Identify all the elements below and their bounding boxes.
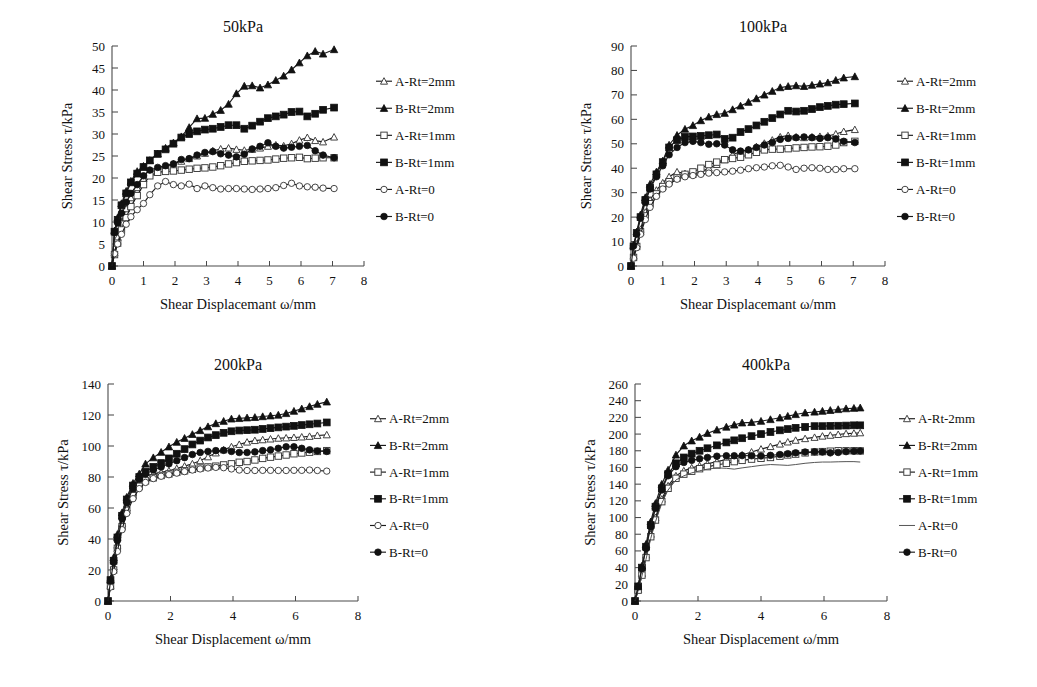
y-tick-label: 260 [609, 377, 629, 392]
y-tick-label: 80 [611, 63, 624, 78]
legend-label: B-Rt=1mm [916, 155, 975, 170]
y-tick-label: 0 [622, 594, 629, 609]
series-a-rt-0 [111, 178, 337, 266]
y-tick-label: 90 [611, 39, 624, 54]
x-axis-title: Shear Displacemant ω/mm [680, 296, 837, 312]
panel-title: 200kPa [214, 356, 262, 373]
x-tick-label: 8 [884, 608, 891, 623]
legend-label: B-Rt=0 [918, 545, 957, 560]
legend-label: A-Rt-2mm [918, 411, 975, 426]
y-tick-label: 20 [615, 577, 628, 592]
y-tick-label: 25 [92, 149, 105, 164]
y-axis-title: Shear Stress τ/kPa [582, 439, 598, 546]
x-tick-label: 0 [632, 608, 639, 623]
series-a-rt-2mm [630, 126, 858, 266]
series-b-rt-0 [630, 134, 858, 266]
x-tick-label: 0 [105, 608, 112, 623]
legend-label: B-Rt=2mm [395, 101, 454, 116]
x-tick-label: 8 [355, 608, 362, 623]
y-tick-label: 140 [609, 477, 629, 492]
x-tick-label: 2 [695, 608, 702, 623]
legend: A-Rt-2mmB-Rt=2mmA-Rt=1mmB-Rt=1mmA-Rt=0B-… [899, 411, 978, 559]
x-tick-label: 4 [235, 273, 242, 288]
legend-label: A-Rt=1mm [395, 128, 455, 143]
x-tick-label: 5 [266, 273, 273, 288]
y-tick-label: 240 [609, 393, 629, 408]
y-tick-label: 60 [611, 112, 624, 127]
y-tick-label: 30 [92, 127, 105, 142]
x-tick-label: 8 [882, 273, 889, 288]
x-tick-label: 3 [723, 273, 730, 288]
panel-title: 100kPa [739, 18, 787, 35]
series-a-rt-1mm [111, 154, 337, 266]
x-axis-title: Shear Displacement ω/mm [155, 631, 312, 647]
y-tick-label: 220 [609, 410, 629, 425]
legend-label: A-Rt=1mm [916, 128, 976, 143]
y-tick-label: 20 [92, 171, 105, 186]
y-tick-label: 40 [88, 532, 101, 547]
legend-label: A-Rt=1mm [389, 465, 449, 480]
axes: 0204060801001201401601802002202402600246… [609, 377, 891, 624]
legend-label: A-Rt=2mm [389, 411, 449, 426]
x-tick-label: 0 [628, 273, 635, 288]
y-tick-label: 40 [611, 161, 624, 176]
figure-shear-stress-displacement-curves: 50kPa05101520253035404550012345678Shear … [0, 0, 1037, 687]
axes: 0102030405060708090012345678 [611, 39, 888, 289]
x-tick-label: 2 [172, 273, 179, 288]
y-tick-label: 180 [609, 443, 629, 458]
y-axis-title: Shear Stress τ/kPa [59, 102, 75, 209]
y-tick-label: 40 [615, 560, 628, 575]
x-tick-label: 2 [167, 608, 174, 623]
legend-label: B-Rt=0 [389, 545, 428, 560]
x-tick-label: 1 [660, 273, 667, 288]
legend-label: B-Rt=1mm [389, 491, 448, 506]
x-axis-title: Shear Displacement ω/mm [683, 631, 840, 647]
series-a-rt-0 [635, 462, 860, 601]
legend-label: B-Rt=0 [395, 209, 434, 224]
x-tick-label: 2 [691, 273, 698, 288]
legend: A-Rt=2mmB-Rt=2mmA-Rt=1mmB-Rt=1mmA-Rt=0B-… [897, 74, 976, 224]
series-a-rt-0 [630, 162, 858, 266]
chart-100kpa: 100kPa0102030405060708090012345678Shear … [519, 0, 1037, 344]
y-axis-title: Shear Stress τ/kPa [55, 439, 71, 546]
panel-title: 50kPa [223, 18, 263, 35]
y-tick-label: 100 [82, 439, 102, 454]
y-tick-label: 35 [92, 105, 105, 120]
y-tick-label: 10 [611, 234, 624, 249]
panel-title: 400kPa [742, 356, 790, 373]
x-axis-title: Shear Displacemant ω/mm [160, 296, 317, 312]
y-tick-label: 20 [88, 563, 101, 578]
y-tick-label: 80 [615, 527, 628, 542]
y-tick-label: 60 [615, 543, 628, 558]
legend-label: B-Rt=0 [916, 209, 955, 224]
y-axis-title: Shear Stress τ/kPa [578, 102, 594, 209]
y-tick-label: 120 [82, 408, 102, 423]
y-tick-label: 160 [609, 460, 629, 475]
y-tick-label: 0 [618, 259, 625, 274]
legend-label: A-Rt=1mm [918, 465, 978, 480]
x-tick-label: 3 [203, 273, 210, 288]
x-tick-label: 7 [850, 273, 857, 288]
legend-label: B-Rt=2mm [918, 438, 977, 453]
chart-400kpa: 400kPa0204060801001201401601802002202402… [519, 344, 1037, 687]
legend-label: B-Rt=1mm [918, 491, 977, 506]
x-tick-label: 1 [140, 273, 147, 288]
chart-200kpa: 200kPa02040608010012014002468Shear Displ… [0, 344, 518, 687]
legend-label: A-Rt=2mm [916, 74, 976, 89]
y-tick-label: 50 [92, 39, 105, 54]
y-tick-label: 45 [92, 61, 105, 76]
y-tick-label: 30 [611, 185, 624, 200]
y-tick-label: 20 [611, 210, 624, 225]
legend-label: A-Rt=0 [916, 182, 956, 197]
y-tick-label: 0 [95, 594, 102, 609]
x-tick-label: 4 [758, 608, 765, 623]
x-tick-label: 7 [329, 273, 336, 288]
x-tick-label: 4 [230, 608, 237, 623]
x-tick-label: 0 [109, 273, 116, 288]
legend-label: A-Rt=0 [918, 518, 958, 533]
legend-label: A-Rt=0 [395, 182, 435, 197]
x-tick-label: 6 [821, 608, 828, 623]
x-tick-label: 8 [361, 273, 368, 288]
legend-label: B-Rt=2mm [916, 101, 975, 116]
x-tick-label: 6 [292, 608, 299, 623]
